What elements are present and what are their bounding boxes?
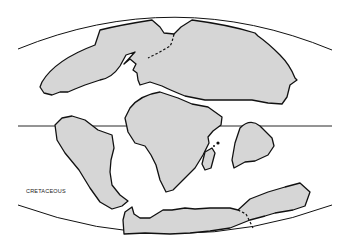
island bbox=[216, 141, 219, 144]
antarctica-landmass bbox=[123, 183, 310, 234]
south-america-landmass bbox=[55, 116, 128, 209]
period-label: CRETACEOUS bbox=[26, 188, 66, 194]
island bbox=[213, 145, 215, 147]
india-landmass bbox=[232, 122, 274, 168]
africa-landmass bbox=[125, 92, 222, 192]
paleogeographic-map bbox=[0, 0, 349, 252]
laurasia-landmass bbox=[40, 20, 297, 104]
